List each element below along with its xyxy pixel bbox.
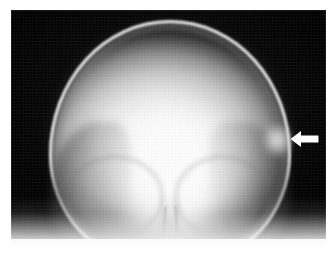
annotation-arrow-icon <box>290 130 319 148</box>
bottom-white-strip <box>11 239 326 246</box>
skull-radiograph-image <box>11 10 326 246</box>
figure-root: Anteroposterior skull radiograph showing… <box>0 0 336 258</box>
